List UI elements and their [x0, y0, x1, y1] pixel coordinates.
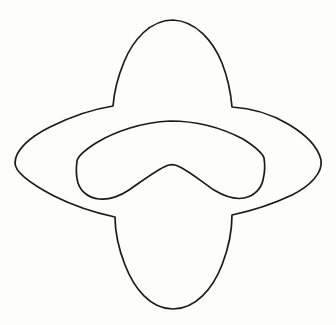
line-drawing: [0, 0, 336, 325]
drawing-canvas: [0, 0, 336, 325]
canvas-background: [0, 0, 336, 325]
